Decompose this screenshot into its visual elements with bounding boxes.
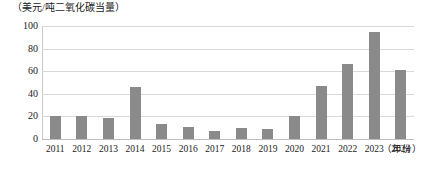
bar-slot xyxy=(148,26,175,139)
y-tick-label: 20 xyxy=(28,111,38,121)
x-tick-label: 2019 xyxy=(255,142,282,158)
bar-slot xyxy=(95,26,122,139)
bar-slot xyxy=(201,26,228,139)
x-axis-unit-label: （年份） xyxy=(382,142,422,156)
y-tick-label: 60 xyxy=(28,66,38,76)
gridline-0 xyxy=(42,139,414,140)
bar-slot xyxy=(255,26,282,139)
bar[interactable] xyxy=(289,116,300,139)
bar-slot xyxy=(308,26,335,139)
bar-chart: （美元/吨二氧化碳当量） 100 80 60 40 20 0 xyxy=(0,0,428,170)
x-tick-label: 2014 xyxy=(122,142,149,158)
bar-slot xyxy=(122,26,149,139)
bar[interactable] xyxy=(369,32,380,139)
bar[interactable] xyxy=(103,118,114,139)
bar[interactable] xyxy=(183,127,194,139)
bar-slot xyxy=(388,26,415,139)
y-axis-tick-labels: 100 80 60 40 20 0 xyxy=(0,26,38,139)
bar-series xyxy=(42,26,414,139)
bar[interactable] xyxy=(156,124,167,139)
bar[interactable] xyxy=(395,70,406,139)
x-tick-label: 2021 xyxy=(308,142,335,158)
x-tick-label: 2022 xyxy=(334,142,361,158)
bar[interactable] xyxy=(50,116,61,139)
y-tick-label: 40 xyxy=(28,89,38,99)
bar[interactable] xyxy=(130,87,141,139)
bar-slot xyxy=(42,26,69,139)
x-tick-label: 2016 xyxy=(175,142,202,158)
bar[interactable] xyxy=(316,86,327,139)
bar[interactable] xyxy=(262,129,273,139)
y-axis-unit-label: （美元/吨二氧化碳当量） xyxy=(12,2,125,14)
y-tick-label: 80 xyxy=(28,44,38,54)
x-tick-label: 2012 xyxy=(69,142,96,158)
bar-slot xyxy=(228,26,255,139)
bar[interactable] xyxy=(342,64,353,139)
x-tick-label: 2020 xyxy=(281,142,308,158)
bar-slot xyxy=(281,26,308,139)
bar[interactable] xyxy=(209,131,220,139)
bar-slot xyxy=(361,26,388,139)
bar[interactable] xyxy=(236,128,247,139)
bar[interactable] xyxy=(76,116,87,139)
plot-area xyxy=(42,26,414,139)
bar-slot xyxy=(334,26,361,139)
x-axis-tick-labels: 2011 2012 2013 2014 2015 2016 2017 2018 … xyxy=(42,142,414,158)
x-tick-label: 2017 xyxy=(201,142,228,158)
x-tick-label: 2015 xyxy=(148,142,175,158)
y-tick-label: 100 xyxy=(23,21,38,31)
x-tick-label: 2018 xyxy=(228,142,255,158)
bar-slot xyxy=(69,26,96,139)
y-tick-label: 0 xyxy=(33,134,38,144)
x-tick-label: 2013 xyxy=(95,142,122,158)
x-tick-label: 2011 xyxy=(42,142,69,158)
bar-slot xyxy=(175,26,202,139)
